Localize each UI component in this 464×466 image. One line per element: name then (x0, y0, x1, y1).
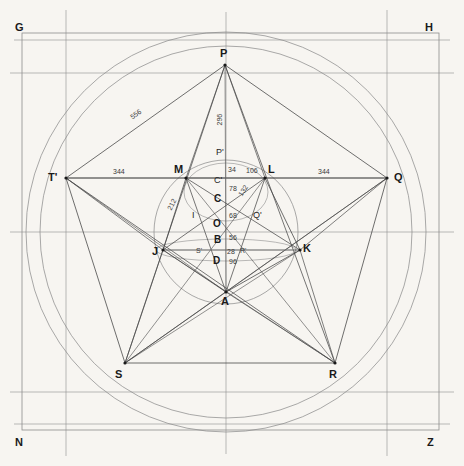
dimension-78: 78 (229, 185, 237, 192)
point-label-c-prime: C' (214, 176, 222, 185)
vertex-label-s: S (115, 369, 122, 380)
dimension-28: 28 (227, 248, 235, 255)
dimension-344-right: 344 (318, 168, 330, 175)
dimension-344-left: 344 (113, 168, 125, 175)
dimension-56: 56 (229, 234, 237, 241)
vertex-label-j: J (152, 246, 158, 257)
vertex-label-k: K (303, 243, 311, 254)
point-label-r-prime: R' (240, 247, 246, 254)
outer-pentagon-edge-1 (66, 178, 125, 363)
inner-pentagon-edge-4 (163, 178, 186, 250)
outer-diagonal-2 (66, 178, 335, 363)
point-label-b: B (214, 235, 221, 245)
vertex-label-r: R (329, 369, 337, 380)
cross-link-4 (163, 250, 335, 363)
cross-link-3 (125, 250, 300, 363)
vertex-dot-q (385, 176, 388, 179)
dimension-68: 68 (229, 212, 237, 219)
vertex-label-t-prime: T' (48, 172, 57, 183)
spoke-3 (66, 178, 163, 250)
cross-link-5 (125, 178, 265, 363)
corner-label-h: H (425, 22, 433, 33)
vertex-dot-m (184, 176, 187, 179)
vertex-dot-l (263, 176, 266, 179)
dimension-34: 34 (228, 166, 236, 173)
diagram-canvas: G H N Z P T' Q S R M L J K A P' C' C O B… (0, 0, 464, 466)
vertex-dot-k (298, 248, 301, 251)
outer-pentagon-edge-0 (66, 65, 225, 178)
point-label-q-prime: Q' (253, 211, 262, 220)
outer-diagonal-1 (225, 65, 335, 363)
dimension-296: 296 (216, 114, 223, 126)
cross-link-0 (66, 178, 226, 292)
spoke-5 (300, 178, 387, 250)
vertex-dot-a (224, 290, 227, 293)
spoke-1 (225, 65, 265, 178)
corner-label-n: N (15, 437, 23, 448)
cross-link-6 (186, 178, 335, 363)
vertex-dot-r (333, 361, 336, 364)
point-label-d: D (213, 256, 220, 266)
outer-pentagon-edge-4 (225, 65, 387, 178)
point-label-c: C (214, 194, 221, 204)
spoke-8 (300, 250, 335, 363)
spoke-6 (125, 250, 163, 363)
frame-rectangle (22, 33, 439, 430)
spoke-7 (125, 292, 226, 363)
point-label-i: I (192, 211, 195, 220)
point-label-p-prime: P' (216, 148, 224, 157)
vertex-dot-j (161, 248, 164, 251)
point-label-o: O (213, 219, 221, 229)
vertex-dot-p (223, 63, 226, 66)
point-label-s-prime: S' (196, 247, 202, 254)
inner-pentagon-edge-2 (226, 250, 300, 292)
dimension-106: 106 (246, 167, 258, 174)
vertex-label-p: P (220, 48, 227, 59)
corner-label-g: G (15, 22, 24, 33)
cross-link-1 (226, 178, 387, 292)
outer-pentagon-edge-3 (335, 178, 387, 363)
corner-label-z: Z (427, 437, 434, 448)
vertex-label-m: M (174, 164, 183, 175)
vertex-label-a: A (221, 296, 229, 307)
vertex-label-q: Q (394, 172, 403, 183)
vertex-label-l: L (268, 164, 275, 175)
vertex-dot-s (123, 361, 126, 364)
geometry-drawing (0, 0, 464, 466)
vertex-dot-t-prime (64, 176, 67, 179)
dimension-96: 96 (229, 258, 237, 265)
